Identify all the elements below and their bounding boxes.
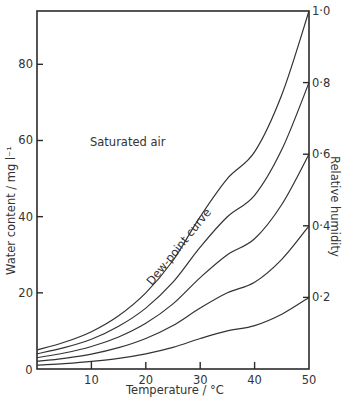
y-axis-label: Water content / mg l⁻¹: [4, 146, 18, 275]
y-tick-label: 20: [18, 286, 33, 300]
x-tick-label: 50: [302, 373, 317, 387]
y2-tick-label: 1·0: [312, 4, 330, 18]
saturated-air-annotation: Saturated air: [90, 135, 166, 149]
humidity-curve: [37, 11, 309, 350]
y2-axis-label: Relative humidity: [328, 156, 342, 257]
y2-tick-label: 0·8: [312, 76, 330, 90]
y-axis-ticks: 20406080: [18, 57, 43, 300]
origin-label: 0: [25, 363, 32, 377]
y-tick-label: 80: [18, 57, 33, 71]
humidity-curves: [37, 11, 309, 365]
y-tick-label: 40: [18, 210, 33, 224]
chart: 20406080 1020304050 1·00·80·60·40·2 0 Te…: [0, 0, 348, 409]
x-tick-label: 10: [84, 373, 99, 387]
humidity-curve: [37, 83, 309, 354]
x-tick-label: 40: [247, 373, 262, 387]
y2-axis-ticks: 1·00·80·60·40·2: [303, 4, 330, 304]
humidity-curve: [37, 297, 309, 365]
plot-frame: [37, 11, 309, 369]
x-axis-label: Temperature / °C: [125, 383, 224, 397]
y2-tick-label: 0·4: [312, 219, 330, 233]
y2-tick-label: 0·2: [312, 290, 330, 304]
y-tick-label: 60: [18, 133, 33, 147]
y2-tick-label: 0·6: [312, 147, 330, 161]
